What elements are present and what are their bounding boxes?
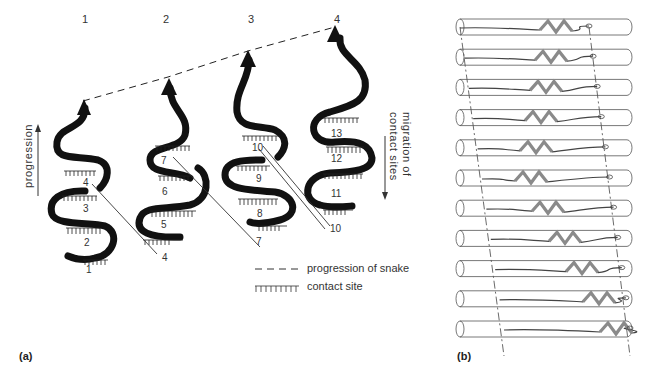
- tube: [456, 110, 632, 126]
- snake-coil: [549, 232, 581, 243]
- stage-label-1: 1: [82, 13, 88, 25]
- migration-label-line-1: migration of: [401, 112, 413, 177]
- tube: [456, 140, 632, 156]
- snake-coil: [566, 263, 598, 274]
- snake-coil: [525, 112, 557, 123]
- tube-stack: [456, 19, 637, 337]
- migration-arrow-head: [382, 192, 388, 200]
- stage-label-2: 2: [163, 13, 169, 25]
- progression-arrow-head: [35, 124, 41, 132]
- tube: [456, 19, 632, 35]
- legend-contact-text: contact site: [307, 280, 363, 292]
- tube: [456, 170, 632, 186]
- snake-4-head-arrow: [327, 25, 343, 42]
- snake-3-head-arrow: [240, 50, 256, 67]
- snake-3: 10 9 8 7: [225, 50, 293, 247]
- tube: [456, 291, 632, 307]
- panel-b: [456, 19, 637, 356]
- snake-coil: [530, 81, 562, 92]
- snake-coil: [520, 142, 552, 153]
- tube: [456, 230, 632, 246]
- tube: [456, 200, 632, 216]
- contact-number: 6: [162, 186, 168, 197]
- tube: [456, 49, 632, 65]
- snake-2-head-arrow: [161, 78, 177, 95]
- snake-coil: [535, 51, 567, 62]
- contact-number: 9: [256, 173, 262, 184]
- tube: [456, 321, 637, 337]
- snake-2: 7 6 5 4: [139, 78, 206, 263]
- stage-label-4: 4: [334, 13, 340, 25]
- contact-number: 7: [161, 155, 167, 166]
- stage-label-3: 3: [248, 13, 254, 25]
- migration-label-line-2: contact sites: [388, 112, 400, 181]
- contact-number: 1: [86, 264, 92, 275]
- progression-axis-label: progression: [22, 124, 34, 188]
- panel-b-label: (b): [457, 350, 471, 362]
- snake-1: 4 3 2 1: [51, 99, 113, 275]
- tube: [456, 261, 632, 277]
- snake-coil: [515, 172, 547, 183]
- snake-1-head-arrow: [77, 99, 91, 115]
- contact-number: 3: [83, 203, 89, 214]
- contact-number: 8: [257, 208, 263, 219]
- panel-a-label: (a): [19, 350, 32, 362]
- contact-migration-lines: [92, 146, 330, 254]
- legend-contact-symbol: [255, 286, 299, 292]
- legend-progression-text: progression of snake: [307, 262, 409, 274]
- migration-axis-label: migration of contact sites: [387, 112, 413, 181]
- contact-number: 5: [161, 219, 167, 230]
- contact-number: 2: [84, 237, 90, 248]
- snake-coil: [540, 21, 572, 32]
- contact-number: 10: [252, 142, 264, 153]
- tube: [456, 79, 632, 95]
- progression-dashed-line: [83, 27, 335, 101]
- figure-canvas: 4 3 2 1 7 6 5 4: [0, 0, 651, 374]
- contact-number: 12: [331, 153, 343, 164]
- snake-4: 13 12 11 10: [308, 25, 372, 234]
- contact-number: 10: [330, 223, 342, 234]
- snake-coil: [583, 293, 615, 304]
- contact-number: 13: [331, 128, 343, 139]
- contact-number: 11: [331, 188, 342, 199]
- snake-coil: [532, 202, 564, 213]
- contact-number: 4: [83, 177, 89, 188]
- panel-a: 4 3 2 1 7 6 5 4: [35, 25, 388, 292]
- contact-number: 4: [162, 252, 168, 263]
